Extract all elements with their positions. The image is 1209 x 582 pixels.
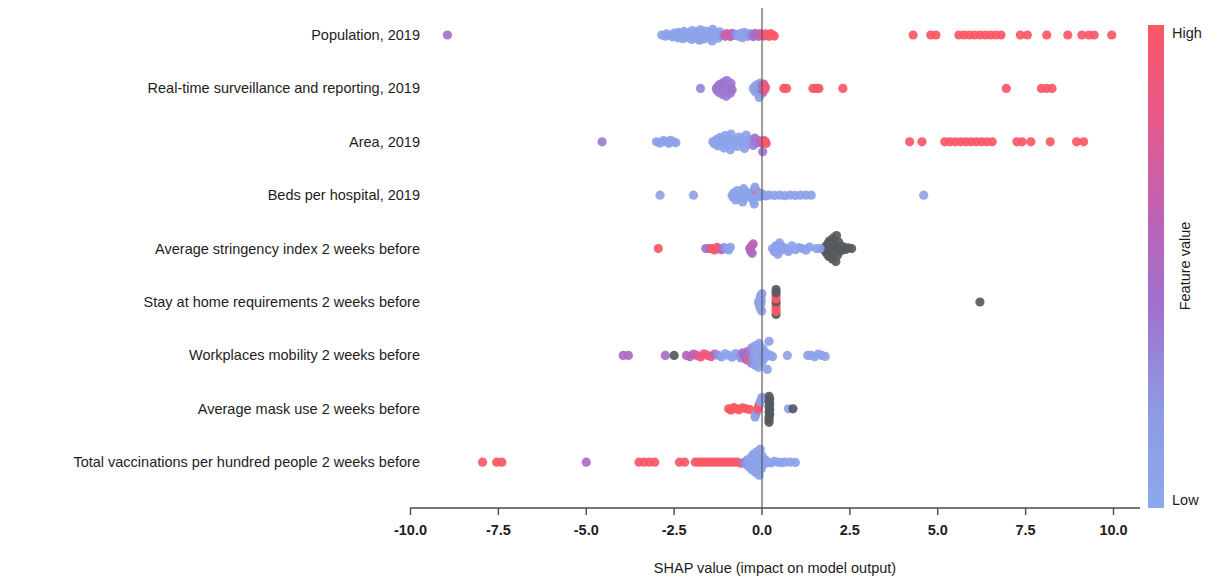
data-point (788, 404, 797, 413)
data-point (764, 392, 773, 401)
data-point (624, 351, 633, 360)
data-point (582, 458, 591, 467)
data-point (917, 137, 926, 146)
data-point (768, 352, 777, 361)
colorbar-title: Feature value (1177, 222, 1193, 311)
data-point (750, 183, 759, 192)
data-point (821, 352, 830, 361)
data-point (847, 244, 856, 253)
x-axis-tick-label: -10.0 (394, 522, 427, 538)
x-axis-tick-label: 7.5 (1016, 522, 1036, 538)
data-point (770, 31, 779, 40)
x-axis-tick-label: -5.0 (574, 522, 599, 538)
feature-label: Area, 2019 (349, 134, 420, 150)
feature-labels-layer: Population, 2019Real-time surveillance a… (73, 27, 420, 470)
data-point (1023, 30, 1032, 39)
data-point (478, 458, 487, 467)
beeswarm-row (655, 183, 928, 209)
colorbar-high-label: High (1172, 25, 1202, 41)
data-point (443, 30, 452, 39)
colorbar-low-label: Low (1172, 492, 1199, 508)
feature-label: Total vaccinations per hundred people 2 … (73, 454, 420, 470)
data-point (909, 30, 918, 39)
feature-label: Beds per hospital, 2019 (268, 187, 420, 203)
data-point (791, 458, 800, 467)
feature-label: Real-time surveillance and reporting, 20… (148, 80, 420, 96)
data-point (807, 191, 816, 200)
data-point (988, 137, 997, 146)
feature-label: Average mask use 2 weeks before (198, 401, 420, 417)
data-point (782, 84, 791, 93)
data-point (996, 30, 1005, 39)
data-point (650, 458, 659, 467)
data-point (670, 351, 679, 360)
feature-label: Workplaces mobility 2 weeks before (189, 347, 420, 363)
x-axis-tick-label: -7.5 (486, 522, 511, 538)
data-point (1046, 137, 1055, 146)
data-point (689, 191, 698, 200)
data-point (762, 139, 771, 148)
data-point (655, 191, 664, 200)
data-point (671, 138, 680, 147)
data-point (1002, 84, 1011, 93)
data-point (1090, 30, 1099, 39)
data-point (771, 288, 780, 297)
beeswarm-row (696, 76, 1057, 102)
data-point (815, 244, 824, 253)
x-axis-tick-label: 0.0 (752, 522, 772, 538)
data-point (750, 199, 759, 208)
data-point (838, 84, 847, 93)
feature-label: Population, 2019 (311, 27, 420, 43)
feature-label: Average stringency index 2 weeks before (155, 241, 420, 257)
data-point (1063, 30, 1072, 39)
data-point (696, 84, 705, 93)
x-axis-tick-label: 2.5 (840, 522, 860, 538)
beeswarm-row (597, 129, 1088, 156)
data-point (1018, 137, 1027, 146)
beeswarm-row (654, 231, 857, 266)
beeswarm-row (478, 445, 800, 480)
data-point (597, 137, 606, 146)
x-axis: -10.0-7.5-5.0-2.50.02.55.07.510.0 (394, 508, 1140, 538)
x-axis-tick-label: -2.5 (662, 522, 687, 538)
data-point (931, 30, 940, 39)
data-point (1107, 30, 1116, 39)
data-point (783, 351, 792, 360)
beeswarm-row (443, 25, 1117, 46)
data-point (654, 244, 663, 253)
data-point (764, 337, 773, 346)
data-point (905, 137, 914, 146)
data-point (1042, 30, 1051, 39)
beeswarm-row (754, 285, 985, 319)
data-point (726, 243, 735, 252)
x-axis-tick-label: 10.0 (1099, 522, 1127, 538)
data-point (763, 365, 772, 374)
colorbar: High Low Feature value (1148, 25, 1202, 508)
data-point (728, 85, 737, 94)
data-point (814, 84, 823, 93)
x-axis-title: SHAP value (impact on model output) (654, 560, 896, 576)
data-point (749, 239, 758, 248)
data-point (1026, 137, 1035, 146)
feature-label: Stay at home requirements 2 weeks before (144, 294, 420, 310)
shap-summary-plot-figure: Population, 2019Real-time surveillance a… (0, 0, 1209, 582)
beeswarm-row (619, 337, 830, 374)
data-point (680, 458, 689, 467)
data-point (497, 458, 506, 467)
colorbar-gradient (1148, 25, 1164, 508)
data-point (748, 249, 757, 258)
beeswarm-dots-layer (443, 25, 1117, 480)
data-point (758, 147, 767, 156)
data-point (1047, 84, 1056, 93)
data-point (975, 297, 984, 306)
data-point (661, 351, 670, 360)
data-point (1079, 137, 1088, 146)
beeswarm-row (724, 392, 798, 427)
data-point (919, 191, 928, 200)
x-axis-tick-label: 5.0 (928, 522, 948, 538)
